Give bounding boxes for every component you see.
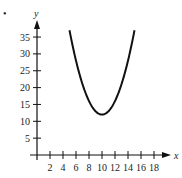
x-tick-label: 8 [87,162,92,173]
y-tick-label: 35 [20,32,30,43]
y-tick-label: 15 [20,99,30,110]
x-tick-label: 18 [149,162,159,173]
x-axis-label: x [173,150,179,161]
x-tick-label: 6 [74,162,79,173]
y-tick-label: 30 [20,48,30,59]
x-ticks: 24681012141618 [48,151,160,173]
parabola-curve [70,30,135,114]
x-tick-label: 16 [136,162,146,173]
x-tick-label: 4 [61,162,66,173]
x-tick-label: 2 [48,162,53,173]
x-tick-label: 10 [97,162,107,173]
axes: y x [30,8,179,161]
y-tick-label: 25 [20,65,30,76]
y-ticks: 5101520253035 [20,32,41,144]
y-axis-arrow-icon [34,20,40,29]
x-tick-label: 12 [110,162,120,173]
item-bullet: • [3,8,7,19]
y-axis-label: y [33,8,39,19]
chart: • y x 5101520253035 24681012141618 [0,0,182,178]
y-tick-label: 5 [25,133,30,144]
x-axis-arrow-icon [162,152,171,158]
x-tick-label: 14 [123,162,133,173]
y-tick-label: 20 [20,82,30,93]
y-tick-label: 10 [20,116,30,127]
